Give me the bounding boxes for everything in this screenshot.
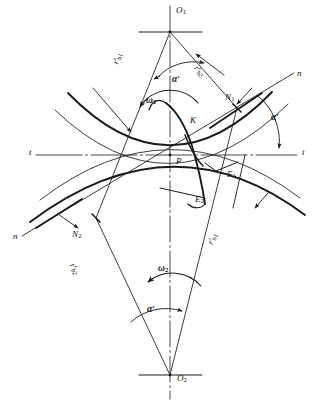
alpha-arc-bottom [131, 308, 182, 322]
label-omega2: ω2 [158, 264, 168, 274]
label-e2: E2 [195, 195, 204, 205]
o2-marker [169, 374, 172, 377]
label-normal-left-n: n [13, 232, 18, 241]
pointer-lower-right-arc [255, 193, 268, 208]
tick-n2 [92, 214, 100, 222]
label-o2: O2 [177, 374, 187, 384]
label-tangent-right-t: t [302, 148, 305, 157]
pointer-n2 [58, 214, 78, 228]
label-tangent-left-t: t [29, 148, 32, 157]
label-alpha-right: α' [271, 113, 279, 123]
o1-marker [169, 31, 172, 34]
alpha-arc-top-tail [154, 76, 160, 79]
radius-o2-n1 [170, 108, 237, 375]
label-n1: N1 [225, 93, 234, 103]
label-omega1: ω1 [146, 96, 156, 106]
label-normal-right-n: n [297, 69, 302, 78]
label-contact-point-k: K [190, 116, 196, 125]
diagram-canvas [0, 0, 323, 405]
label-alpha-top: α' [172, 75, 180, 85]
pitch-point-marker [169, 154, 172, 157]
radius-o2-n2 [96, 218, 170, 375]
label-pitch-point-p: P [176, 157, 182, 166]
involute-flank-gear1 [166, 103, 205, 204]
label-n2: N2 [72, 230, 81, 240]
label-alpha-bottom: α' [147, 305, 155, 315]
pointer-rb1-top [93, 88, 131, 132]
label-e1: E1 [227, 170, 236, 180]
label-o1: O1 [176, 6, 186, 16]
gear-meshing-diagram: O1 O2 P K N1 N2 E1 E2 r'b1 r'b2 r'b2 r'b… [0, 0, 323, 405]
